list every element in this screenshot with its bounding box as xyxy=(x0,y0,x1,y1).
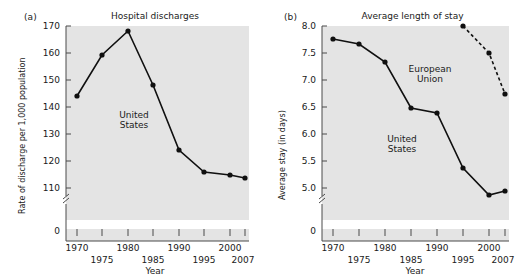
data-point xyxy=(99,52,104,57)
data-point xyxy=(434,110,439,115)
data-point xyxy=(176,147,181,152)
data-point xyxy=(227,172,232,177)
data-point xyxy=(150,82,155,87)
panel-a-x-ticks xyxy=(77,229,245,236)
data-point xyxy=(502,91,507,96)
panel-b-line-european-union xyxy=(463,26,505,94)
data-point xyxy=(201,169,206,174)
panel-a-graphics xyxy=(0,0,260,279)
data-point xyxy=(486,50,491,55)
data-point xyxy=(460,23,465,28)
data-point xyxy=(382,59,387,64)
data-point xyxy=(486,192,491,197)
data-point xyxy=(330,36,335,41)
data-point xyxy=(502,188,507,193)
data-point xyxy=(242,175,247,180)
data-point xyxy=(74,93,79,98)
data-point xyxy=(408,105,413,110)
panel-b-graphics xyxy=(260,0,520,279)
panel-b-points-united-states xyxy=(330,36,507,197)
panel-a-hospital-discharges: (a) Hospital discharges Rate of discharg… xyxy=(0,0,260,279)
data-point xyxy=(125,28,130,33)
panel-b-line-united-states xyxy=(333,39,505,195)
panel-b-points-european-union xyxy=(460,23,507,96)
panel-b-y-ticks xyxy=(322,26,327,188)
data-point xyxy=(460,165,465,170)
panel-b-x-ticks xyxy=(333,229,505,236)
panel-b-average-length-of-stay: (b) Average length of stay Average stay … xyxy=(260,0,520,279)
panel-a-y-ticks xyxy=(66,26,71,188)
data-point xyxy=(356,41,361,46)
figure: (a) Hospital discharges Rate of discharg… xyxy=(0,0,520,279)
